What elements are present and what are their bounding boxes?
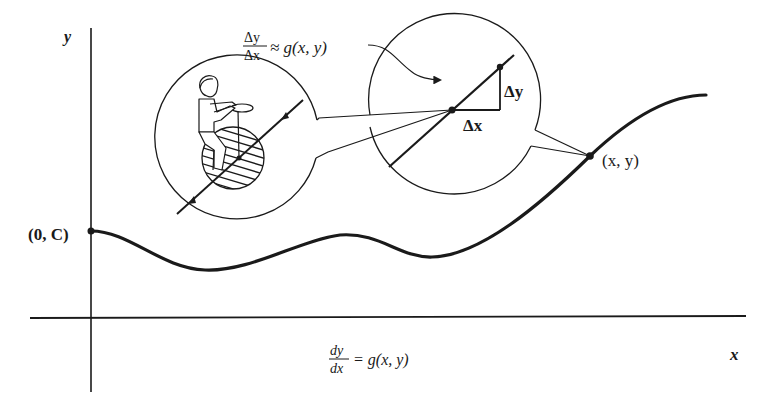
initial-point-label: (0, C) (28, 225, 69, 244)
left-connector-upper (317, 110, 452, 120)
equation-numerator: dy (330, 343, 344, 358)
x-axis-label: x (729, 345, 739, 364)
zoom-label: Δy Δx ≈ g(x, y) (243, 30, 440, 80)
differential-equation: dy dx = g(x, y) (329, 343, 409, 376)
unicycle-rider-inset (155, 55, 452, 219)
delta-y-label: Δy (504, 82, 524, 101)
diagram-canvas: y x (0, C) (x, y) Δx Δy Δy Δx ≈ g(x, y) (0, 0, 761, 406)
zoom-label-arrow (368, 45, 440, 80)
tangent-triangle-inset: Δx Δy (369, 13, 590, 193)
axes (30, 28, 746, 392)
delta-point-dot (497, 64, 503, 70)
equation-rhs: = g(x, y) (353, 351, 409, 369)
right-inset-circle (369, 13, 541, 193)
zoom-label-numerator: Δy (244, 30, 260, 45)
zoom-label-relation: ≈ g(x, y) (270, 38, 327, 57)
x-axis (30, 316, 746, 318)
general-point-label: (x, y) (602, 151, 639, 170)
initial-point-dot (88, 228, 95, 235)
connector-lower (531, 146, 590, 156)
equation-denominator: dx (330, 361, 344, 376)
y-axis-label: y (62, 28, 72, 46)
connector-upper (535, 130, 590, 156)
delta-x-label: Δx (463, 116, 483, 135)
solution-curve (91, 95, 706, 270)
